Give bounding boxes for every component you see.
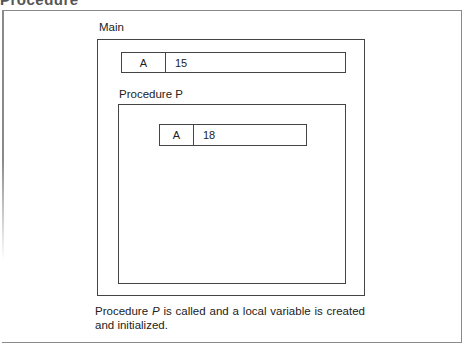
procedure-label: Procedure P: [119, 88, 183, 100]
main-label: Main: [99, 21, 124, 33]
variable-name: A: [122, 53, 166, 72]
variable-value: 15: [166, 53, 187, 72]
variable-name: A: [160, 125, 194, 145]
caption-italic-p: P: [152, 305, 160, 317]
cut-off-heading: Procedure: [0, 0, 79, 8]
variable-value: 18: [194, 125, 215, 145]
figure-frame-left-edge: [2, 10, 4, 260]
main-variable-a: A 15: [121, 52, 346, 73]
procedure-variable-a: A 18: [159, 124, 307, 146]
figure-caption: Procedure P is called and a local variab…: [95, 304, 365, 332]
caption-text-1: Procedure: [95, 305, 152, 317]
